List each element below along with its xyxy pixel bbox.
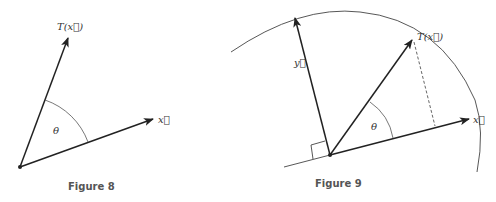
caption-figure-9: Figure 9 — [315, 178, 362, 189]
vector-y — [295, 18, 330, 155]
label-tx: T(x⃗) — [417, 31, 443, 42]
origin-point — [18, 165, 22, 169]
vector-x — [330, 119, 469, 155]
figure-8: T(x⃗) x⃗ θ Figure 8 — [18, 21, 170, 192]
label-theta: θ — [53, 125, 59, 136]
vector-tx — [330, 40, 412, 155]
angle-arc — [45, 100, 88, 142]
label-tx: T(x⃗) — [57, 21, 83, 32]
caption-figure-8: Figure 8 — [68, 181, 115, 192]
label-x: x⃗ — [158, 114, 170, 125]
label-y: y⃗ — [293, 57, 306, 68]
base-line — [284, 155, 330, 167]
origin-point — [328, 153, 332, 157]
angle-arc — [370, 102, 393, 138]
diagram-canvas: T(x⃗) x⃗ θ Figure 8 T(x⃗) x⃗ y⃗ θ Figure… — [0, 0, 496, 202]
right-angle-mark — [311, 141, 325, 159]
label-theta: θ — [371, 121, 377, 132]
vector-tx — [20, 38, 68, 167]
label-x: x⃗ — [473, 114, 485, 125]
projection-dashed — [414, 42, 435, 126]
figure-9: T(x⃗) x⃗ y⃗ θ Figure 9 — [231, 11, 485, 189]
vector-x — [20, 119, 153, 167]
